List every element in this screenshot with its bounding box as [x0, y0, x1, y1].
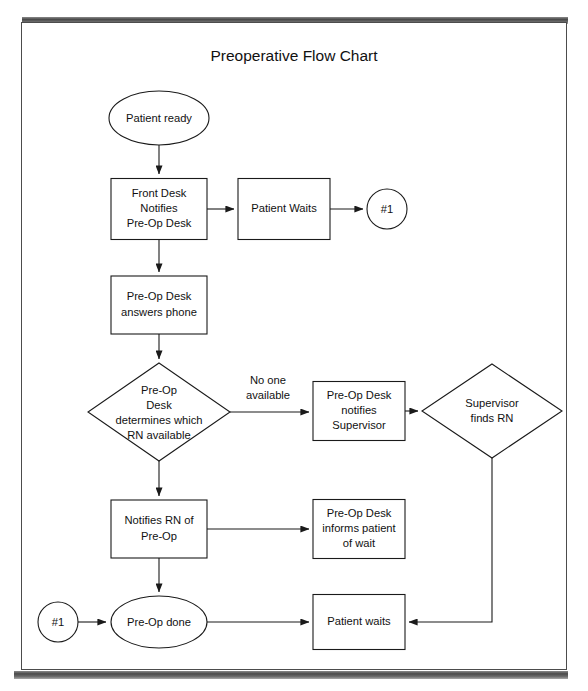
node-connector-one-top-label: #1	[381, 203, 393, 215]
node-patient-waits-top-label: Patient Waits	[251, 202, 317, 214]
node-preop-desk-answers-phone-line2: answers phone	[121, 306, 197, 318]
node-notifies-rn-of-preop[interactable]: Notifies RN of Pre-Op	[111, 500, 207, 558]
node-preop-desk-notifies-supervisor-line2: notifies	[341, 404, 377, 416]
chart-title: Preoperative Flow Chart	[210, 47, 378, 64]
edge-label-no-one-available: No one available	[246, 374, 290, 401]
node-preop-desk-informs-patient-line2: informs patient	[322, 522, 396, 534]
node-decision-rn-available-line2: Desk	[146, 399, 172, 411]
node-preop-desk-answers-phone[interactable]: Pre-Op Desk answers phone	[111, 276, 207, 334]
svg-text:available: available	[246, 389, 290, 401]
node-decision-rn-available-line4: RN available	[127, 429, 190, 441]
edge-super-finds-rn-to-patient-waits-2	[409, 458, 492, 622]
node-supervisor-finds-rn-line2: finds RN	[471, 412, 514, 424]
node-preop-desk-informs-patient[interactable]: Pre-Op Desk informs patient of wait	[313, 500, 405, 559]
node-decision-rn-available-line3: determines which	[115, 414, 202, 426]
node-supervisor-finds-rn[interactable]: Supervisor finds RN	[422, 364, 562, 458]
node-preop-desk-informs-patient-line3: of wait	[343, 537, 376, 549]
node-preop-desk-answers-phone-line1: Pre-Op Desk	[127, 290, 192, 302]
node-front-desk-notifies-line3: Pre-Op Desk	[127, 217, 192, 229]
node-connector-one-top[interactable]: #1	[367, 189, 407, 229]
node-decision-rn-available-shape	[88, 363, 230, 461]
node-preop-desk-notifies-supervisor-line3: Supervisor	[332, 419, 386, 431]
node-notifies-rn-of-preop-line2: Pre-Op	[141, 530, 177, 542]
node-patient-waits-top[interactable]: Patient Waits	[238, 179, 330, 240]
node-front-desk-notifies-line1: Front Desk	[132, 187, 187, 199]
node-decision-rn-available-line1: Pre-Op	[141, 384, 177, 396]
flowchart-page: Preoperative Flow Chart No one available	[0, 0, 588, 691]
node-decision-rn-available[interactable]: Pre-Op Desk determines which RN availabl…	[88, 363, 230, 461]
node-front-desk-notifies-line2: Notifies	[140, 202, 178, 214]
flowchart-canvas: Preoperative Flow Chart No one available	[0, 0, 588, 691]
node-patient-ready-label: Patient ready	[126, 112, 192, 124]
node-preop-done-label: Pre-Op done	[127, 616, 191, 628]
node-patient-waits-bottom-label: Patient waits	[327, 615, 391, 627]
node-supervisor-finds-rn-line1: Supervisor	[465, 397, 519, 409]
node-patient-ready[interactable]: Patient ready	[109, 91, 209, 145]
node-preop-done[interactable]: Pre-Op done	[111, 596, 207, 648]
node-connector-one-bottom[interactable]: #1	[38, 602, 78, 642]
svg-text:No one: No one	[250, 374, 286, 386]
node-front-desk-notifies[interactable]: Front Desk Notifies Pre-Op Desk	[111, 179, 207, 240]
node-preop-desk-informs-patient-line1: Pre-Op Desk	[327, 507, 392, 519]
node-patient-waits-bottom[interactable]: Patient waits	[313, 595, 405, 650]
node-preop-desk-notifies-supervisor-line1: Pre-Op Desk	[327, 389, 392, 401]
node-connector-one-bottom-label: #1	[52, 616, 64, 628]
node-preop-desk-notifies-supervisor[interactable]: Pre-Op Desk notifies Supervisor	[313, 382, 405, 441]
node-notifies-rn-of-preop-line1: Notifies RN of	[124, 514, 194, 526]
